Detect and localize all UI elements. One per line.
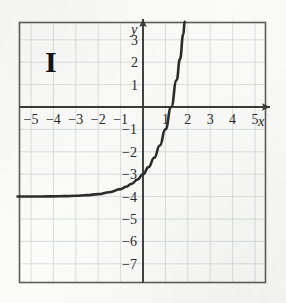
y-tick-label: −7 <box>122 257 137 272</box>
x-axis-tick-labels: −5−4−3−2−112345 <box>24 112 259 127</box>
x-axis-label: x <box>257 113 265 129</box>
x-tick-label: 3 <box>207 112 214 127</box>
figure-label: I <box>45 45 57 78</box>
graph-canvas: −5−4−3−2−112345 321−1−2−3−4−5−6−7 x y I <box>0 0 286 303</box>
y-tick-label: −2 <box>122 145 137 160</box>
x-tick-label: 4 <box>229 112 236 127</box>
y-tick-label: −5 <box>122 212 137 227</box>
exponential-curve <box>18 22 185 197</box>
x-tick-label: −4 <box>46 112 61 127</box>
exponential-graph-figure: −5−4−3−2−112345 321−1−2−3−4−5−6−7 x y I <box>0 0 286 303</box>
x-tick-label: 2 <box>184 112 191 127</box>
y-axis-label: y <box>129 21 138 37</box>
x-tick-label: −3 <box>68 112 83 127</box>
y-tick-label: −1 <box>122 122 137 137</box>
y-tick-label: −4 <box>122 190 137 205</box>
x-tick-label: −5 <box>24 112 39 127</box>
y-tick-label: −6 <box>122 234 137 249</box>
y-axis-tick-labels: 321−1−2−3−4−5−6−7 <box>122 33 138 272</box>
x-tick-label: −2 <box>91 112 106 127</box>
y-tick-label: 2 <box>131 55 138 70</box>
y-tick-label: 1 <box>131 78 138 93</box>
